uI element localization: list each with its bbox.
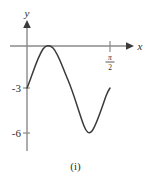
x-axis-arrow-icon — [126, 42, 134, 50]
x-tick-pi-over-2-numerator: π — [108, 53, 112, 62]
x-axis-label: x — [137, 40, 143, 52]
figure-caption: (i) — [0, 160, 151, 172]
y-axis-arrow-icon — [23, 20, 31, 28]
y-tick-minus6-label: -6 — [12, 127, 22, 139]
figure-container: -3 -6 π 2 x y (i) — [0, 0, 151, 186]
plot-svg: -3 -6 π 2 x y — [0, 0, 151, 186]
x-tick-pi-over-2-denominator: 2 — [108, 63, 112, 72]
y-axis-label: y — [24, 7, 30, 19]
curve-path — [27, 46, 110, 133]
y-tick-minus3-label: -3 — [12, 82, 22, 94]
